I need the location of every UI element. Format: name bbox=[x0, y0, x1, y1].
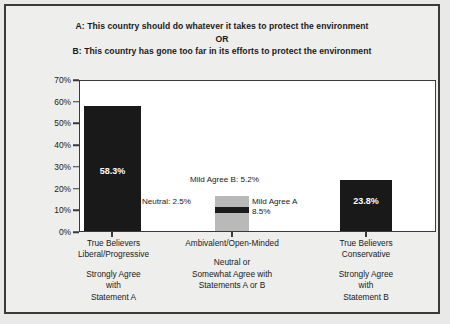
chart-title: A: This country should do whatever it ta… bbox=[6, 20, 438, 58]
x-group-2-line-3: Somewhat Agree with bbox=[161, 269, 303, 280]
bar-true-believers-conservative[interactable]: 23.8% bbox=[340, 180, 392, 231]
x-group-3-line-5: Statement B bbox=[310, 292, 422, 303]
x-group-1-line-1: True Believers bbox=[51, 238, 176, 249]
bar-true-believers-liberal[interactable]: 58.3% bbox=[84, 106, 141, 231]
x-group-2-line-4: Statements A or B bbox=[161, 280, 303, 291]
y-tick-label-0: 0% bbox=[59, 227, 71, 237]
x-group-label-3: True Believers Conservative Strongly Agr… bbox=[310, 238, 422, 303]
title-line-1: A: This country should do whatever it ta… bbox=[6, 20, 438, 33]
x-axis: True Believers Liberal/Progressive Stron… bbox=[79, 234, 436, 314]
x-group-3-line-2: Conservative bbox=[310, 249, 422, 260]
x-tick-mark-2 bbox=[231, 232, 233, 237]
bar-value-label-1: 58.3% bbox=[84, 166, 141, 176]
annotation-neutral: Neutral: 2.5% bbox=[142, 197, 191, 207]
y-tick-label-20: 20% bbox=[54, 184, 71, 194]
plot-area: 58.3% 23.8% Mild Agree B: 5.2% Neutral: … bbox=[79, 80, 436, 232]
x-group-1-line-5: Statement A bbox=[51, 292, 176, 303]
y-tick-label-30: 30% bbox=[54, 162, 71, 172]
x-group-1-line-3: Strongly Agree bbox=[51, 269, 176, 280]
segment-mild-agree-a[interactable] bbox=[215, 213, 249, 231]
annotation-mild-agree-a: Mild Agree A bbox=[252, 197, 297, 207]
x-group-3-line-1: True Believers bbox=[310, 238, 422, 249]
y-tick-label-50: 50% bbox=[54, 118, 71, 128]
segment-mild-agree-b[interactable] bbox=[215, 196, 249, 207]
annotation-mild-agree-a-value: 8.5% bbox=[252, 207, 270, 217]
chart-frame: A: This country should do whatever it ta… bbox=[4, 4, 440, 314]
x-group-label-2: Ambivalent/Open-Minded Neutral or Somewh… bbox=[161, 238, 303, 292]
bar-value-label-3: 23.8% bbox=[340, 196, 392, 206]
x-tick-mark-1 bbox=[111, 232, 113, 237]
y-tick-label-40: 40% bbox=[54, 140, 71, 150]
x-group-2-line-1: Ambivalent/Open-Minded bbox=[161, 238, 303, 249]
x-group-2-spacer bbox=[161, 249, 303, 257]
annotation-mild-agree-b: Mild Agree B: 5.2% bbox=[190, 175, 259, 185]
y-axis: 70% 60% 50% 40% 30% 20% 10% 0% bbox=[10, 80, 79, 232]
x-group-2-line-2: Neutral or bbox=[161, 257, 303, 268]
y-tick-label-10: 10% bbox=[54, 205, 71, 215]
y-tick-label-60: 60% bbox=[54, 97, 71, 107]
title-line-3: B: This country has gone too far in its … bbox=[6, 45, 438, 58]
y-tick-label-70: 70% bbox=[54, 75, 71, 85]
x-group-label-1: True Believers Liberal/Progressive Stron… bbox=[51, 238, 176, 303]
title-line-2: OR bbox=[6, 33, 438, 46]
x-group-1-line-2: Liberal/Progressive bbox=[51, 249, 176, 260]
x-group-3-line-4: with bbox=[310, 280, 422, 291]
x-group-1-spacer bbox=[51, 261, 176, 269]
x-group-3-line-3: Strongly Agree bbox=[310, 269, 422, 280]
x-tick-mark-3 bbox=[365, 232, 367, 237]
bar-ambivalent-stacked[interactable] bbox=[215, 196, 249, 231]
segment-neutral[interactable] bbox=[215, 207, 249, 212]
x-group-3-spacer bbox=[310, 261, 422, 269]
x-group-1-line-4: with bbox=[51, 280, 176, 291]
